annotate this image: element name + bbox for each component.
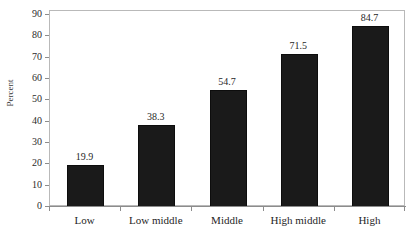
bar: [210, 90, 247, 207]
y-axis-tick: 80: [0, 35, 49, 36]
y-axis-tick-label: 40: [32, 114, 42, 127]
bar-value-label: 38.3: [126, 111, 186, 122]
y-axis-tick-label: 90: [32, 7, 42, 20]
plot-area: [49, 10, 405, 206]
x-axis-tick-mark: [334, 206, 335, 211]
bar: [352, 26, 389, 207]
y-axis-tick-label: 80: [32, 28, 42, 41]
x-axis-category-label: High: [319, 213, 413, 228]
y-axis-tick: 50: [0, 99, 49, 100]
x-axis-tick-mark: [191, 206, 192, 211]
x-axis-tick-mark: [120, 206, 121, 211]
chart-title: [0, 0, 413, 3]
y-axis-tick-label: 70: [32, 50, 42, 63]
x-axis-line: [49, 206, 406, 207]
y-axis-tick: 40: [0, 121, 49, 122]
x-axis-tick-mark: [263, 206, 264, 211]
y-axis-tick-label: 0: [37, 199, 42, 212]
bar-value-label: 19.9: [55, 151, 115, 162]
bar-value-label: 71.5: [268, 40, 328, 51]
y-axis-tick-label: 60: [32, 71, 42, 84]
bar: [281, 54, 318, 207]
bar-chart-figure: Percent 0102030405060708090 19.938.354.7…: [0, 0, 413, 235]
y-axis-title: Percent: [5, 63, 15, 123]
y-axis-tick: 10: [0, 185, 49, 186]
y-axis-tick: 70: [0, 57, 49, 58]
bar: [67, 165, 104, 207]
y-axis-tick-label: 10: [32, 178, 42, 191]
y-axis-tick: 60: [0, 78, 49, 79]
y-axis-tick-label: 50: [32, 92, 42, 105]
y-axis-tick-label: 30: [32, 135, 42, 148]
y-axis-tick: 20: [0, 163, 49, 164]
bar: [138, 125, 175, 207]
bar-value-label: 84.7: [339, 12, 399, 23]
x-axis-tick-mark: [404, 206, 405, 211]
y-axis-tick: 0: [0, 206, 49, 207]
x-axis-tick-mark: [49, 206, 50, 211]
y-axis-tick: 90: [0, 14, 49, 15]
y-axis-tick-label: 20: [32, 156, 42, 169]
bar-value-label: 54.7: [197, 76, 257, 87]
y-axis-tick: 30: [0, 142, 49, 143]
